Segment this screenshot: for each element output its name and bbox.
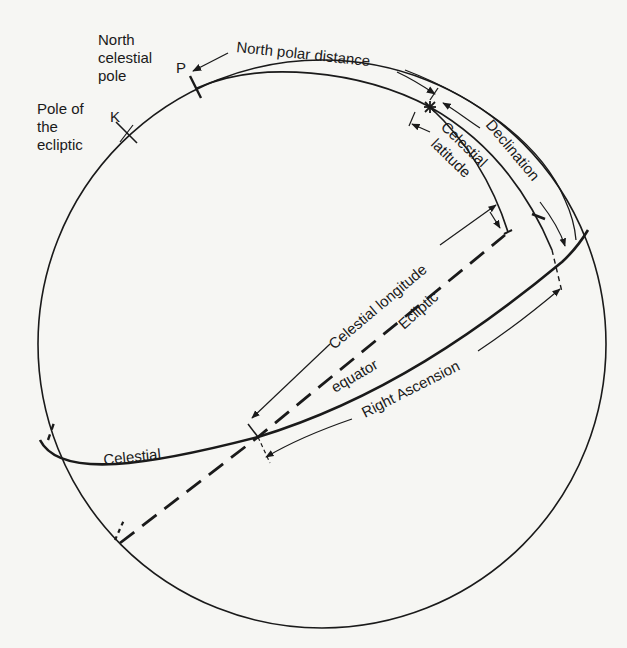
latitude-tick [409,112,415,126]
hour-circle [197,72,552,250]
label-pole-of-ecliptic-3: ecliptic [37,136,83,153]
label-north-polar-distance: North polar distance [236,38,371,69]
right-ascension-arrow-left [266,419,352,457]
label-north-celestial-pole-1: North [98,31,135,48]
equinox-tick-upper [248,424,258,437]
npd-tick [430,88,438,100]
label-north-celestial-pole-3: pole [98,67,126,84]
latitude-arrow-top [412,124,430,132]
north-polar-distance-arrow-left [193,53,228,71]
label-declination: Declination [483,116,544,184]
right-ascension-arrow-right [478,289,560,351]
label-point-k: K [110,108,120,125]
label-pole-of-ecliptic-2: the [37,118,58,135]
label-north-celestial-pole-2: celestial [98,49,152,66]
ecliptic [120,235,505,543]
celestial-sphere-diagram: North celestial pole Pole of the eclipti… [0,0,627,648]
label-celestial: Celestial [103,445,162,468]
ecliptic-dashed-right [532,214,545,219]
celestial-longitude-arrow-top [440,205,496,245]
label-point-p: P [176,59,186,76]
celestial-longitude-arrow-bottom [252,344,330,418]
star-icon [424,101,436,113]
latitude-arrow-bottom [490,212,500,228]
celestial-equator [40,230,588,464]
hour-circle-dashed [552,250,562,292]
equinox-tick-lower [258,437,270,463]
ecliptic-dashed-left [115,520,124,540]
declination-arrow-bottom [540,202,565,246]
ecliptic-pole-tick [116,122,137,143]
label-pole-of-ecliptic-1: Pole of [37,100,85,117]
